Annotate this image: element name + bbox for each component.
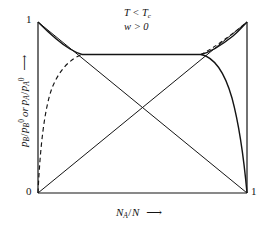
y-axis-p-b-standard-superscript: 0 [17, 119, 26, 123]
y-axis-p-b-standard: p [17, 127, 29, 133]
x-axis-label: NA/N⟶ [0, 206, 277, 220]
metastable-dashed-curve-left [38, 55, 82, 194]
annotation-line-temperature: T < Tc [124, 7, 151, 21]
y-axis-p-b: p [17, 142, 29, 148]
annotation-temp-text: T < T [124, 7, 148, 18]
annotation-temp-subscript: c [148, 12, 151, 20]
y-axis-p-a: p [17, 100, 29, 106]
y-axis-min-tick-label: 0 [26, 186, 32, 197]
condition-annotation: T < Tc w > 0 [124, 7, 151, 33]
y-axis-p-a-subscript: A [22, 95, 31, 100]
y-axis-label: pB/pB0orpA/pA0⟶ [17, 21, 32, 181]
x-axis-denominator: N [132, 206, 139, 218]
y-axis-p-a-standard-subscript: A [22, 81, 31, 86]
annotation-line-w: w > 0 [124, 21, 151, 34]
plot-area [0, 0, 277, 234]
vapor-pressure-chart: 1 0 1 T < Tc w > 0 NA/N⟶ pB/pB0orpA/pA0⟶ [0, 0, 277, 234]
partial-pressure-curve-a-right [201, 22, 247, 55]
y-axis-conjunction: or [17, 107, 29, 117]
metastable-dashed-curve-right [201, 22, 247, 55]
x-axis-max-tick-label: 1 [251, 186, 257, 197]
x-axis-arrow-icon: ⟶ [146, 206, 161, 218]
y-axis-slash-1: / [17, 133, 29, 136]
y-axis-p-a-standard-superscript: 0 [17, 77, 26, 81]
y-axis-arrow-icon: ⟶ [17, 56, 29, 71]
partial-pressure-curve-b-right [201, 55, 247, 194]
y-axis-slash-2: / [17, 92, 29, 95]
y-axis-p-b-subscript: B [22, 137, 31, 142]
y-axis-p-b-standard-subscript: B [22, 123, 31, 128]
y-axis-p-a-standard: p [17, 86, 29, 92]
